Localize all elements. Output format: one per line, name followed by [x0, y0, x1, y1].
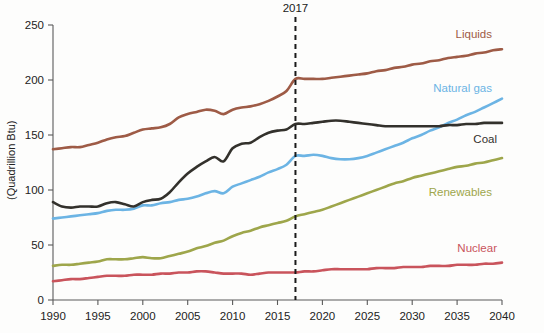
y-tick-label: 200 [25, 74, 44, 86]
y-axis-title: (Quadrillion Btu) [5, 121, 17, 200]
x-tick-label: 2035 [444, 310, 470, 322]
x-tick-label: 2020 [310, 310, 336, 322]
divider-year-label: 2017 [283, 2, 309, 14]
series-label-natural-gas: Natural gas [433, 82, 492, 94]
y-tick-label: 250 [25, 19, 44, 31]
x-tick-label: 2030 [399, 310, 425, 322]
x-tick-label: 2040 [489, 310, 515, 322]
x-axis-tick-labels: 1990199520002005201020152020202520302035… [40, 310, 515, 322]
y-tick-label: 50 [31, 239, 44, 251]
y-tick-label: 0 [38, 294, 44, 306]
series-label-renewables: Renewables [429, 186, 493, 198]
series-label-nuclear: Nuclear [457, 242, 497, 254]
series-line-liquids [53, 49, 502, 149]
chart-canvas: 050100150200250 199019952000200520102015… [0, 0, 544, 333]
series-line-renewables [53, 158, 502, 266]
series-line-nuclear [53, 263, 502, 282]
x-tick-label: 1990 [40, 310, 66, 322]
series-inline-labels: LiquidsNatural gasCoalRenewablesNuclear [429, 28, 497, 254]
series-label-coal: Coal [473, 133, 497, 145]
energy-consumption-line-chart: 050100150200250 199019952000200520102015… [0, 0, 544, 333]
axis-tickmarks [48, 25, 502, 305]
x-tick-label: 2000 [130, 310, 156, 322]
x-tick-label: 2010 [220, 310, 246, 322]
x-tick-label: 2015 [265, 310, 291, 322]
y-tick-label: 100 [25, 184, 44, 196]
x-tick-label: 2005 [175, 310, 201, 322]
series-label-liquids: Liquids [456, 28, 493, 40]
x-tick-label: 1995 [85, 310, 111, 322]
y-tick-label: 150 [25, 129, 44, 141]
series-line-natural-gas [53, 99, 502, 219]
y-axis-tick-labels: 050100150200250 [25, 19, 44, 306]
x-tick-label: 2025 [355, 310, 381, 322]
